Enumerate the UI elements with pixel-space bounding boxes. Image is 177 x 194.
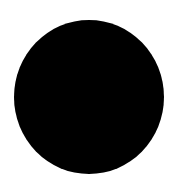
black-circle-shape bbox=[14, 20, 164, 174]
